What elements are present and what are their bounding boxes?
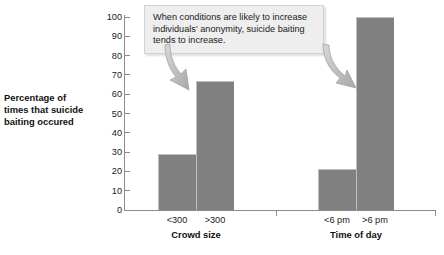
bar-chart: Percentage of times that suicide baiting… [0, 0, 444, 255]
y-tick: 50 [95, 109, 130, 119]
y-tick-mark [125, 94, 130, 95]
y-tick-mark [125, 113, 130, 114]
x-axis-line [124, 210, 436, 211]
y-tick-mark [125, 210, 130, 211]
y-tick-mark [125, 55, 130, 56]
y-tick-label: 0 [117, 205, 122, 215]
y-tick: 100 [95, 12, 130, 22]
y-tick: 10 [95, 186, 130, 196]
bar [356, 17, 394, 210]
x-axis-divider-tick [276, 210, 277, 216]
y-axis-title-line-2: times that suicide [4, 104, 104, 116]
arrow-right-icon [323, 44, 356, 88]
bar [318, 169, 356, 210]
y-tick-label: 10 [112, 186, 122, 196]
y-tick-mark [125, 152, 130, 153]
y-tick: 90 [95, 31, 130, 41]
y-tick-label: 80 [112, 51, 122, 61]
y-tick-mark [125, 17, 130, 18]
y-axis-title: Percentage of times that suicide baiting… [4, 92, 104, 128]
x-axis-group-label: Crowd size [132, 229, 260, 240]
y-tick-label: 70 [112, 70, 122, 80]
x-axis-divider-tick [435, 210, 436, 216]
y-tick-label: 100 [107, 12, 122, 22]
y-tick-mark [125, 74, 130, 75]
y-tick-label: 20 [112, 166, 122, 176]
bar [196, 81, 234, 210]
y-tick: 60 [95, 89, 130, 99]
annotation-text: When conditions are likely to increase i… [153, 12, 307, 45]
x-axis-group-label: Time of day [292, 229, 420, 240]
annotation-callout: When conditions are likely to increase i… [144, 5, 324, 54]
y-tick-label: 50 [112, 109, 122, 119]
y-tick: 0 [95, 205, 130, 215]
x-tick-label: >6 pm [348, 215, 402, 226]
y-tick-mark [125, 132, 130, 133]
y-tick-label: 40 [112, 128, 122, 138]
bar [158, 154, 196, 210]
x-tick-label: >300 [188, 215, 242, 226]
y-axis-title-line-3: baiting occured [4, 116, 104, 128]
y-tick: 20 [95, 166, 130, 176]
y-tick-mark [125, 171, 130, 172]
y-tick-label: 30 [112, 147, 122, 157]
y-tick: 70 [95, 70, 130, 80]
y-tick-mark [125, 36, 130, 37]
y-tick-mark [125, 190, 130, 191]
y-tick-label: 60 [112, 89, 122, 99]
y-axis-title-line-1: Percentage of [4, 92, 104, 104]
y-tick: 40 [95, 128, 130, 138]
y-tick: 80 [95, 51, 130, 61]
y-tick: 30 [95, 147, 130, 157]
y-tick-label: 90 [112, 31, 122, 41]
